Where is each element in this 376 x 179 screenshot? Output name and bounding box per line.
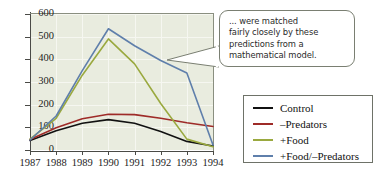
callout-line-1: ... were matched <box>229 16 347 27</box>
series-line <box>30 120 213 146</box>
chart-legend: Control–Predators+Food+Food/–Predators <box>243 95 373 163</box>
callout-line-4: mathematical model. <box>229 50 347 61</box>
legend-color-swatch <box>253 155 273 157</box>
legend-item-label: –Predators <box>280 118 327 130</box>
legend-item-label: Control <box>280 102 314 114</box>
annotation-callout: ... were matched fairly closely by these… <box>219 10 355 67</box>
callout-pointer-tail <box>150 20 230 80</box>
legend-color-swatch <box>253 139 273 141</box>
legend-item-label: +Food/–Predators <box>280 150 359 162</box>
legend-item[interactable]: +Food/–Predators <box>244 148 372 164</box>
chart-figure: 0100200300400500600 19871988198919901991… <box>0 0 376 179</box>
callout-line-2: fairly closely by these <box>229 27 347 38</box>
callout-line-3: predictions from a <box>229 39 347 50</box>
legend-item[interactable]: +Food <box>244 132 372 148</box>
legend-color-swatch <box>253 123 273 125</box>
legend-item-label: +Food <box>280 134 309 146</box>
series-line <box>30 114 213 139</box>
legend-item[interactable]: Control <box>244 100 372 116</box>
legend-item[interactable]: –Predators <box>244 116 372 132</box>
legend-color-swatch <box>253 107 273 109</box>
